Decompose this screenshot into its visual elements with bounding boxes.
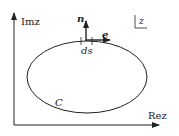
x-axis-label: Rez bbox=[148, 111, 167, 121]
tangent-vector-label: e bbox=[102, 30, 108, 40]
complex-plane-contour-diagram: Imz Rez z C n e ds bbox=[0, 0, 179, 136]
plane-label: z bbox=[139, 17, 144, 26]
arc-element-label: ds bbox=[81, 46, 93, 56]
y-axis-label: Imz bbox=[21, 17, 40, 27]
curve-label: C bbox=[55, 98, 63, 108]
normal-vector-label: n bbox=[77, 14, 84, 24]
